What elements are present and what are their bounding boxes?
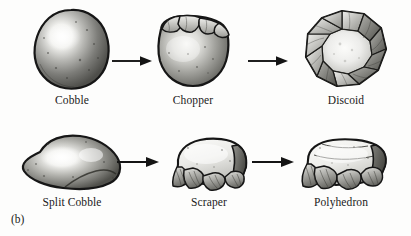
stone-label-discoid: Discoid [328,95,364,107]
stone-item-discoid: Discoid [298,8,394,107]
stone-label-scraper: Scraper [191,197,227,209]
stone-tool-sequence-figure: Cobble [0,0,411,236]
arrow-split-cobble-to-scraper [117,155,159,169]
panel-tag: (b) [11,214,24,226]
stone-label-polyhedron: Polyhedron [314,197,368,209]
stone-item-split-cobble: Split Cobble [16,130,128,209]
stone-item-cobble: Cobble [24,8,120,107]
stone-item-chopper: Chopper [146,9,240,107]
chopper-stone-icon [153,9,233,91]
stone-label-cobble: Cobble [55,95,89,107]
stone-item-polyhedron: Polyhedron [288,134,394,209]
stone-label-chopper: Chopper [173,95,213,107]
cobble-stone-icon [32,8,112,92]
scraper-stone-icon [164,134,254,192]
stone-label-split-cobble: Split Cobble [42,197,101,209]
split-cobble-stone-icon [18,130,126,192]
stone-item-scraper: Scraper [162,134,256,209]
discoid-stone-icon [302,8,390,92]
arrow-chopper-to-discoid [248,54,288,68]
polyhedron-stone-icon [290,134,392,192]
